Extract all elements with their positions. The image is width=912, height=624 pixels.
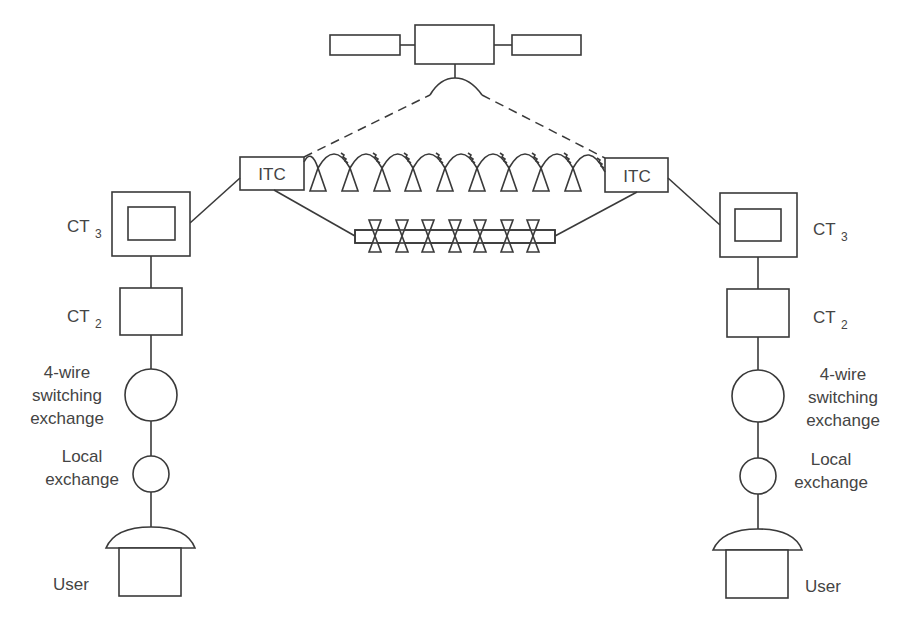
local-right-label-line2: exchange <box>794 473 868 492</box>
user-right-label: User <box>805 577 841 596</box>
four-wire-left-label-line3: exchange <box>30 409 104 428</box>
satellite-uplink-left <box>304 95 430 157</box>
radio-relay-link <box>304 153 605 191</box>
cable-link <box>274 190 637 252</box>
itc-right: ITC <box>605 158 668 192</box>
radio-tower-icon <box>565 168 581 191</box>
left-chain: CT 3 CT 2 4-wire switching exchange Loca… <box>30 178 240 596</box>
four-wire-right-label-line3: exchange <box>806 411 880 430</box>
local-right-label-line1: Local <box>811 450 852 469</box>
radio-tower-icon <box>501 168 517 191</box>
satellite-solar-panel-left <box>330 35 400 55</box>
radio-tower-icon <box>374 168 390 191</box>
radio-tower-icon <box>405 168 421 191</box>
satellite-uplink-right <box>482 95 605 158</box>
ct3-right-inner <box>735 209 781 241</box>
user-left-dome <box>106 527 195 548</box>
ct2-right-subscript: 2 <box>841 318 848 332</box>
radio-tower-icon <box>469 168 485 191</box>
ct3-right-subscript: 3 <box>841 230 848 244</box>
itc-right-label: ITC <box>623 167 650 186</box>
four-wire-right-label-line2: switching <box>808 388 878 407</box>
radio-tower-icon <box>342 168 358 191</box>
satellite-body <box>415 25 494 64</box>
ct2-right <box>727 289 789 337</box>
ct3-right-label: CT <box>813 220 836 239</box>
international-telephone-connection-diagram: ITC ITC <box>0 0 912 624</box>
satellite-solar-panel-right <box>512 35 581 55</box>
user-left-box <box>119 548 181 596</box>
radio-tower-icon <box>310 168 326 191</box>
four-wire-left-label-line1: 4-wire <box>44 363 90 382</box>
user-left-label: User <box>53 575 89 594</box>
satellite <box>330 25 581 95</box>
ct3-left-label: CT <box>67 217 90 236</box>
four-wire-exchange-right <box>732 370 784 422</box>
ct2-left-label: CT <box>67 307 90 326</box>
local-left-label-line1: Local <box>62 447 103 466</box>
itc-left: ITC <box>240 157 304 190</box>
user-right-dome <box>713 529 802 550</box>
local-exchange-left <box>133 456 169 492</box>
local-exchange-right <box>740 458 776 494</box>
user-right-box <box>726 550 788 598</box>
four-wire-right-label-line1: 4-wire <box>820 365 866 384</box>
four-wire-exchange-left <box>125 369 177 421</box>
radio-tower-icon <box>437 168 453 191</box>
satellite-dish-icon <box>430 78 482 95</box>
ct2-left <box>120 288 182 335</box>
right-chain: CT 3 CT 2 4-wire switching exchange Loca… <box>668 178 880 598</box>
radio-tower-icon <box>533 168 549 191</box>
ct2-left-subscript: 2 <box>95 317 102 331</box>
ct2-right-label: CT <box>813 308 836 327</box>
ct3-left-subscript: 3 <box>95 227 102 241</box>
local-left-label-line2: exchange <box>45 470 119 489</box>
ct3-left-inner <box>128 207 175 240</box>
four-wire-left-label-line2: switching <box>32 386 102 405</box>
itc-left-label: ITC <box>258 165 285 184</box>
